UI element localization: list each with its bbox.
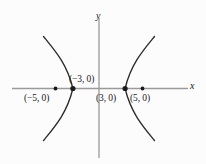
point-marker-vertex-left (70, 86, 75, 91)
hyperbola-figure: (−3, 0) (−5, 0) (3, 0) (5, 0) x y (0, 0, 206, 164)
plot-canvas (0, 0, 206, 164)
point-marker-focus-left (54, 87, 58, 91)
point-marker-vertex-right (123, 86, 128, 91)
x-axis-label: x (190, 80, 194, 91)
y-axis-label: y (96, 10, 100, 21)
point-label-vertex-right: (3, 0) (96, 93, 116, 103)
point-label-focus-left: (−5, 0) (24, 93, 49, 103)
point-label-focus-right: (5, 0) (130, 93, 150, 103)
point-label-vertex-left: (−3, 0) (69, 74, 94, 84)
point-marker-focus-right (141, 87, 145, 91)
